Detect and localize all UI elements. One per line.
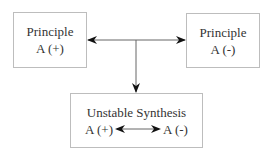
positive-label: A (+) xyxy=(85,121,113,138)
node-title: Unstable Synthesis xyxy=(87,104,186,121)
node-subtitle: A (+) xyxy=(36,40,64,57)
principle-negative-box: Principle A (-) xyxy=(186,13,260,68)
node-title: Principle xyxy=(200,24,247,41)
negative-label: A (-) xyxy=(163,121,188,138)
bidirectional-arrow-icon xyxy=(113,124,163,134)
node-subtitle: A (-) xyxy=(211,41,236,58)
synthesis-row: A (+) A (-) xyxy=(85,121,188,138)
principle-positive-box: Principle A (+) xyxy=(13,12,87,68)
unstable-synthesis-box: Unstable Synthesis A (+) A (-) xyxy=(70,93,203,148)
node-title: Principle xyxy=(27,23,74,40)
